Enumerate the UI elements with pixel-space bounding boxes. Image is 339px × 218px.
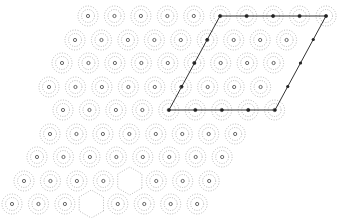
lattice-figure	[0, 0, 339, 218]
